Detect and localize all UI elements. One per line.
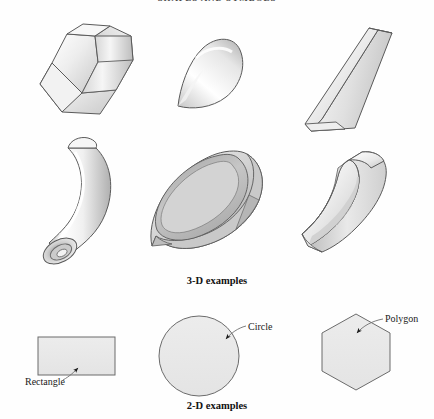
callout-label-polygon: Polygon bbox=[385, 313, 418, 324]
caption-2d-examples: 2-D examples bbox=[0, 400, 434, 411]
paper-background bbox=[0, 0, 434, 419]
callout-label-circle: Circle bbox=[248, 321, 272, 332]
caption-3d-examples: 3-D examples bbox=[0, 275, 434, 286]
running-head: SHAPES AND SYMBOLS bbox=[0, 0, 434, 3]
callout-label-rectangle: Rectangle bbox=[25, 376, 65, 387]
figure-page: SHAPES AND SYMBOLS bbox=[0, 0, 434, 419]
